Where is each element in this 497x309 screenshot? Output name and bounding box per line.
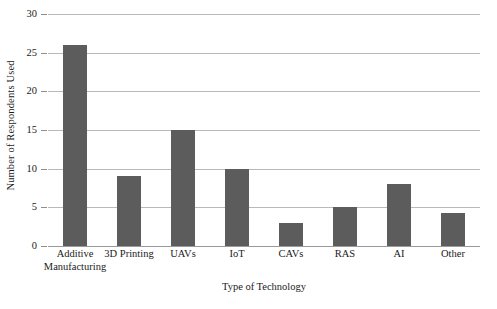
- bar: [333, 207, 357, 246]
- y-tick-label-30: 30: [11, 9, 37, 19]
- y-tick-label-15: 15: [11, 125, 37, 135]
- bar: [225, 169, 249, 246]
- bar: [63, 45, 87, 246]
- y-tick-label-20: 20: [11, 86, 37, 96]
- x-axis-label-line1: UAVs: [170, 248, 195, 259]
- y-tick-mark-15: [41, 130, 47, 131]
- y-tick-mark-10: [41, 169, 47, 170]
- x-axis-label: Other: [410, 248, 496, 261]
- x-axis-label-line1: CAVs: [279, 248, 304, 259]
- bar: [117, 176, 141, 246]
- x-axis-label-line1: IoT: [229, 248, 244, 259]
- bar: [441, 213, 465, 246]
- y-tick-label-25: 25: [11, 48, 37, 58]
- bar-chart: Number of Respondents Used 051015202530 …: [0, 0, 497, 309]
- bar: [387, 184, 411, 246]
- y-tick-mark-25: [41, 53, 47, 54]
- bars-layer: [48, 14, 480, 246]
- y-axis-ticks: 051015202530: [0, 14, 48, 246]
- x-axis-label-line2: Manufacturing: [32, 261, 118, 274]
- y-tick-mark-5: [41, 207, 47, 208]
- x-axis-labels: AdditiveManufacturing3D PrintingUAVsIoTC…: [48, 248, 480, 282]
- x-axis-label-line1: RAS: [335, 248, 355, 259]
- y-tick-mark-30: [41, 14, 47, 15]
- y-tick-mark-0: [41, 246, 47, 247]
- y-tick-label-5: 5: [11, 202, 37, 212]
- bar: [171, 130, 195, 246]
- y-tick-mark-20: [41, 91, 47, 92]
- x-axis-label-line1: AI: [393, 248, 404, 259]
- x-axis-label-line1: Other: [441, 248, 465, 259]
- y-tick-label-10: 10: [11, 164, 37, 174]
- x-axis-title: Type of Technology: [48, 281, 480, 292]
- gridline-0: [48, 246, 480, 247]
- bar: [279, 223, 303, 246]
